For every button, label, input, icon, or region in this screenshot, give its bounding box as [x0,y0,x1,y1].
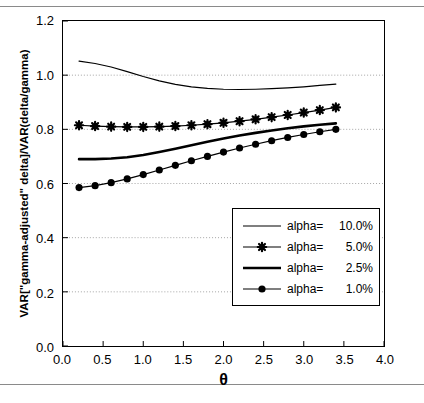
legend-label-name: alpha= [287,282,323,296]
legend-key-swatch [241,239,283,255]
data-point-marker [187,121,195,129]
data-point-marker [155,122,163,130]
legend-label-value: 1.0% [346,282,373,296]
figure-page: 0.00.20.40.60.81.01.2 0.00.51.01.52.02.5… [0,0,424,403]
data-point-marker [300,108,308,116]
top-divider-rule [0,6,424,7]
data-point-marker [124,175,131,182]
chart-legend: alpha=10.0%alpha=5.0%alpha=2.5%alpha=1.0… [232,208,380,306]
data-point-marker [75,121,83,129]
legend-label-value: 10.0% [339,219,373,233]
data-point-marker [258,242,266,250]
x-tick-label: 1.0 [134,352,152,367]
data-point-marker [92,182,99,189]
data-point-marker [140,171,147,178]
y-axis-title: VAR["gamma-adjusted" delta]/VAR(delta/ga… [18,20,34,347]
data-series [79,61,336,89]
legend-label-value: 5.0% [346,240,373,254]
chart-figure: 0.00.20.40.60.81.01.2 0.00.51.01.52.02.5… [0,10,424,382]
legend-row: alpha=10.0% [241,215,373,236]
data-point-marker [219,119,227,127]
legend-label: alpha=10.0% [287,219,373,233]
legend-key-swatch [241,281,283,297]
data-point-marker [316,128,323,135]
x-tick-label: 0.5 [93,352,111,367]
legend-label: alpha=5.0% [287,240,373,254]
data-point-marker [172,162,179,169]
x-tick-label: 0.0 [53,352,71,367]
legend-label-name: alpha= [287,261,323,275]
data-point-marker [123,123,131,131]
data-point-marker [258,285,265,292]
data-point-marker [251,115,259,123]
data-point-marker [156,166,163,173]
data-point-marker [188,157,195,164]
data-point-marker [267,113,275,121]
x-tick-label: 4.0 [376,352,394,367]
data-point-marker [108,179,115,186]
data-point-marker [235,117,243,125]
data-point-marker [91,122,99,130]
series-line [79,61,336,89]
legend-label-value: 2.5% [346,261,373,275]
legend-label: alpha=1.0% [287,282,373,296]
data-point-marker [316,106,324,114]
legend-label: alpha=2.5% [287,261,373,275]
data-point-marker [300,131,307,138]
legend-key-swatch [241,218,283,234]
data-point-marker [332,103,340,111]
data-point-marker [203,120,211,128]
data-point-marker [171,122,179,130]
data-point-marker [252,141,259,148]
data-point-marker [139,123,147,131]
legend-row: alpha=2.5% [241,257,373,278]
data-point-marker [332,126,339,133]
data-point-marker [284,134,291,141]
x-tick-label: 2.0 [214,352,232,367]
data-point-marker [75,184,82,191]
x-tick-label: 2.5 [255,352,273,367]
data-point-marker [284,111,292,119]
legend-row: alpha=1.0% [241,278,373,299]
data-point-marker [236,144,243,151]
x-axis-tick-labels: 0.00.51.01.52.02.53.03.54.0 [62,352,385,372]
x-tick-label: 3.5 [336,352,354,367]
legend-key-swatch [241,260,283,276]
x-tick-label: 1.5 [174,352,192,367]
legend-row: alpha=5.0% [241,236,373,257]
data-point-marker [268,137,275,144]
x-axis-title: θ [62,371,385,389]
data-point-marker [204,153,211,160]
legend-label-name: alpha= [287,219,323,233]
data-point-marker [220,149,227,156]
x-tick-label: 3.0 [295,352,313,367]
data-point-marker [107,122,115,130]
legend-label-name: alpha= [287,240,323,254]
